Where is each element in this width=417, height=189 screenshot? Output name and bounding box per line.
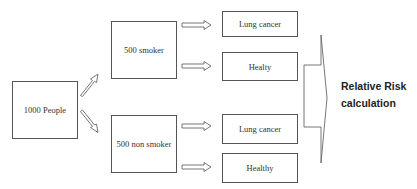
arrow-smoker-to-lung-cancer-icon (182, 21, 211, 30)
smoker-box: 500 smoker (111, 21, 177, 79)
smoker-lung-cancer-label: Lung cancer (239, 19, 281, 29)
arrow-population-to-smoker-icon (81, 74, 99, 97)
population-label: 1000 People (24, 105, 66, 115)
non-smoker-label: 500 non smoker (117, 139, 172, 149)
non-smoker-lung-cancer-label: Lung cancer (239, 124, 281, 134)
population-box: 1000 People (12, 81, 78, 139)
relative-risk-diagram: 1000 People 500 smoker 500 non smoker Lu… (0, 0, 417, 189)
non-smoker-box: 500 non smoker (111, 115, 177, 173)
smoker-label: 500 smoker (124, 45, 164, 55)
arrow-smoker-to-healty-icon (182, 62, 211, 71)
relative-risk-line1: Relative Risk (341, 78, 406, 95)
smoker-healty-box: Healty (222, 52, 298, 81)
arrow-non-smoker-to-lung-cancer-icon (182, 122, 211, 131)
arrow-non-smoker-to-healthy-icon (182, 163, 211, 172)
relative-risk-label: Relative Risk calculation (341, 78, 406, 112)
relative-risk-line2: calculation (341, 95, 406, 112)
non-smoker-lung-cancer-box: Lung cancer (222, 114, 298, 144)
non-smoker-healthy-box: Healthy (222, 153, 298, 183)
non-smoker-healthy-label: Healthy (247, 163, 274, 173)
arrow-population-to-non-smoker-icon (81, 110, 99, 133)
smoker-healty-label: Healty (249, 62, 272, 72)
smoker-lung-cancer-box: Lung cancer (222, 11, 298, 37)
big-arrow-to-relative-risk-icon (304, 35, 327, 163)
